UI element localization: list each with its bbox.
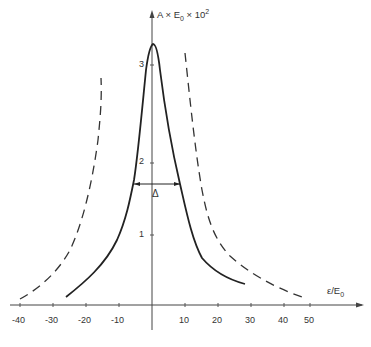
dashed-right-curve [185,53,305,298]
y-tick-label: 3 [139,59,144,69]
x-axis-title: ε/E0 [327,285,344,298]
x-axis-arrow-icon [356,303,364,308]
delta-label: Δ [152,188,159,199]
x-tick-label: -40 [12,315,25,325]
x-tick-label: 20 [212,315,222,325]
plot-area [0,0,371,347]
delta-width-marker [134,182,180,186]
x-tick-label: 50 [304,315,314,325]
x-tick-label: -30 [45,315,58,325]
chart: A × E0 × 102 3 2 1 Δ -40 -30 -20 -10 10 … [0,0,371,347]
x-tick-label: -10 [111,315,124,325]
x-tick-label: 10 [179,315,189,325]
y-tick-label: 1 [139,229,144,239]
y-tick-label: 2 [139,156,144,166]
y-axis-arrow-icon [150,10,155,18]
arrow-left-icon [134,182,140,186]
dashed-left-curve [20,78,101,299]
x-tick-label: -20 [78,315,91,325]
x-tick-label: 30 [245,315,255,325]
y-axis-title: A × E0 × 102 [157,8,209,22]
x-tick-label: 40 [278,315,288,325]
